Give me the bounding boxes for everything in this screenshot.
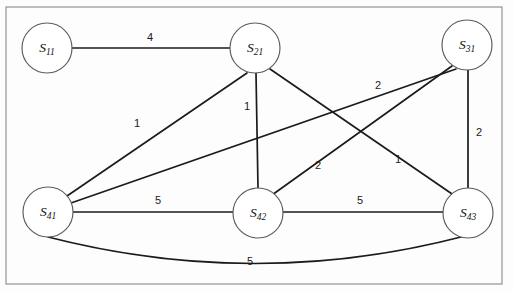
edge-s41-s31 <box>71 69 456 203</box>
node-s21[interactable]: S21 <box>230 23 280 73</box>
node-label-subscript-s31: 31 <box>465 44 476 54</box>
node-label-subscript-s11: 11 <box>46 47 55 57</box>
edge-weight-s21-s43: 2 <box>315 159 321 171</box>
edge-weight-s41-s31: 2 <box>375 79 381 91</box>
node-label-subscript-s43: 43 <box>467 212 477 222</box>
edge-weight-s41-s42: 5 <box>155 194 161 206</box>
edge-weights-layer: 4121221555 <box>134 31 482 267</box>
edge-s41-s21 <box>67 73 247 196</box>
node-s41[interactable]: S41 <box>23 187 73 237</box>
edge-weight-s42-s43: 5 <box>357 194 363 206</box>
graph-figure: S11S21S31S41S42S43 4121221555 <box>0 0 514 292</box>
node-label-subscript-s41: 41 <box>47 211 57 221</box>
node-s31[interactable]: S31 <box>442 20 492 70</box>
edge-weight-s31-s42: 1 <box>395 153 401 165</box>
graph-canvas: S11S21S31S41S42S43 4121221555 <box>0 0 514 292</box>
edge-weight-s31-s43: 2 <box>476 126 482 138</box>
edge-weight-s11-s21: 4 <box>147 31 153 43</box>
edge-s21-s42 <box>256 73 258 188</box>
edge-weight-s41-s21: 1 <box>134 117 140 129</box>
node-label-subscript-s21: 21 <box>254 47 264 57</box>
node-label-subscript-s42: 42 <box>257 212 267 222</box>
edge-s41-s43 <box>48 237 461 264</box>
edge-weight-s21-s42: 1 <box>244 100 250 112</box>
node-s11[interactable]: S11 <box>22 23 72 73</box>
edge-weight-s41-s43: 5 <box>247 255 253 267</box>
node-s42[interactable]: S42 <box>233 188 283 238</box>
node-s43[interactable]: S43 <box>443 188 493 238</box>
